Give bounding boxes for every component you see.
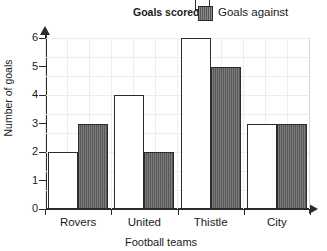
legend-label-goals-against: Goals against: [218, 6, 288, 19]
x-axis-tick: [310, 210, 311, 215]
bar-thistle-scored: [181, 38, 211, 209]
x-axis-tick: [178, 210, 179, 215]
legend-label-goals-scored: Goals scored: [133, 6, 200, 19]
y-axis-tick: [39, 152, 46, 153]
bar-rovers-scored: [48, 152, 78, 209]
y-axis-tick-label: 5: [22, 61, 38, 72]
bar-united-scored: [114, 95, 144, 209]
x-axis-label-rovers: Rovers: [45, 216, 111, 228]
x-axis-tick: [244, 210, 245, 215]
x-axis-label-united: United: [111, 216, 177, 228]
x-axis-label-city: City: [244, 216, 310, 228]
x-axis-tick: [111, 210, 112, 215]
bar-rovers-against: [78, 124, 108, 210]
y-axis-tick-label: 2: [22, 146, 38, 157]
x-axis-title: Football teams: [16, 236, 306, 248]
y-axis-tick: [39, 95, 46, 96]
y-axis-tick: [39, 123, 46, 124]
legend-item-goals-against: Goals against: [198, 5, 288, 20]
legend-swatch-goals-against-icon: [198, 6, 213, 21]
y-axis-title: Number of goals: [2, 38, 14, 158]
bar-thistle-against: [211, 67, 241, 210]
bar-chart: Goals scored Goals against 0123456 Rover…: [0, 0, 327, 251]
bar-city-against: [277, 124, 307, 210]
x-axis-label-thistle: Thistle: [178, 216, 244, 228]
y-axis-tick-label: 4: [22, 89, 38, 100]
x-axis-tick: [45, 210, 46, 215]
bar-city-scored: [247, 124, 277, 210]
y-axis-tick-label: 6: [22, 32, 38, 43]
y-axis-tick: [39, 180, 46, 181]
y-axis-tick: [39, 38, 46, 39]
y-axis-tick-label: 1: [22, 175, 38, 186]
chart-legend: Goals scored Goals against: [0, 0, 327, 26]
y-axis-tick-label: 3: [22, 118, 38, 129]
bar-united-against: [144, 152, 174, 209]
y-axis-tick: [39, 66, 46, 67]
plot-area: [45, 38, 310, 209]
legend-item-goals-scored: Goals scored: [133, 6, 200, 19]
y-axis-tick-label: 0: [22, 203, 38, 214]
